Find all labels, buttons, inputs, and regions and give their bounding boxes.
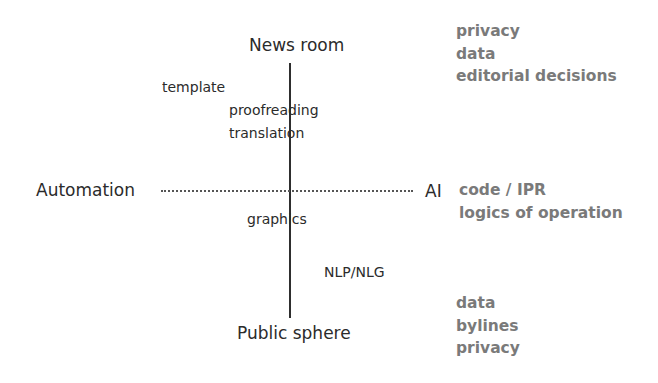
issue-data: data bbox=[456, 47, 617, 63]
issue-privacy: privacy bbox=[456, 341, 520, 357]
issue-editorial-decisions: editorial decisions bbox=[456, 69, 617, 85]
item-proofreading: proofreading bbox=[229, 103, 319, 117]
issue-logics-of-operation: logics of operation bbox=[459, 206, 623, 222]
issues-newsroom: privacy data editorial decisions bbox=[456, 24, 617, 92]
issue-privacy: privacy bbox=[456, 24, 617, 40]
axis-label-public-sphere: Public sphere bbox=[237, 325, 351, 342]
axis-label-news-room: News room bbox=[249, 37, 344, 54]
axis-label-ai: AI bbox=[425, 183, 442, 200]
item-nlp-nlg: NLP/NLG bbox=[324, 265, 385, 279]
issues-public-sphere: data bylines privacy bbox=[456, 296, 520, 364]
issues-ai: code / IPR logics of operation bbox=[459, 183, 623, 228]
issue-data: data bbox=[456, 296, 520, 312]
issue-code-ipr: code / IPR bbox=[459, 183, 623, 199]
axis-label-automation: Automation bbox=[36, 182, 135, 199]
item-graphics: graphics bbox=[247, 212, 307, 226]
item-template: template bbox=[162, 80, 225, 94]
item-translation: translation bbox=[229, 126, 304, 140]
issue-bylines: bylines bbox=[456, 319, 520, 335]
horizontal-dotted-axis-line bbox=[161, 190, 413, 192]
newsroom-ai-diagram: News room Public sphere Automation AI te… bbox=[0, 0, 658, 383]
